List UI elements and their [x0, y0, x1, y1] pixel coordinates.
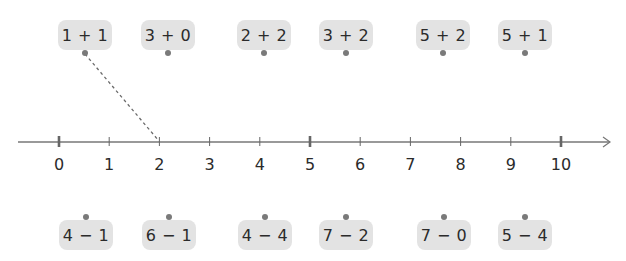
tick-label-1: 1: [94, 155, 124, 174]
expression-card[interactable]: 1 + 1: [58, 20, 112, 50]
tick-label-9: 9: [496, 155, 526, 174]
connector-dot-icon[interactable]: [83, 214, 89, 220]
expression-card[interactable]: 5 + 2: [416, 20, 470, 50]
tick-label-0: 0: [44, 155, 74, 174]
connector-dot-icon[interactable]: [441, 214, 447, 220]
connector-dot-icon[interactable]: [261, 50, 267, 56]
tick-label-2: 2: [144, 155, 174, 174]
connector-dot-icon[interactable]: [166, 214, 172, 220]
tick-label-6: 6: [345, 155, 375, 174]
connector-dot-icon[interactable]: [343, 214, 349, 220]
tick-label-10: 10: [546, 155, 576, 174]
expression-card[interactable]: 2 + 2: [237, 20, 291, 50]
tick-label-3: 3: [195, 155, 225, 174]
expression-card[interactable]: 5 − 4: [498, 220, 552, 250]
expression-card[interactable]: 4 − 4: [238, 220, 292, 250]
connector-dot-icon[interactable]: [522, 50, 528, 56]
expression-card[interactable]: 4 − 1: [59, 220, 113, 250]
expression-card[interactable]: 7 − 2: [319, 220, 373, 250]
connector-dot-icon[interactable]: [262, 214, 268, 220]
expression-card[interactable]: 5 + 1: [498, 20, 552, 50]
tick-label-8: 8: [446, 155, 476, 174]
tick-label-5: 5: [295, 155, 325, 174]
connector-dot-icon[interactable]: [343, 50, 349, 56]
expression-card[interactable]: 6 − 1: [142, 220, 196, 250]
dashed-connector: [85, 54, 159, 141]
connector-dot-icon[interactable]: [522, 214, 528, 220]
tick-label-4: 4: [245, 155, 275, 174]
expression-card[interactable]: 3 + 0: [141, 20, 195, 50]
expression-card[interactable]: 7 − 0: [417, 220, 471, 250]
expression-card[interactable]: 3 + 2: [319, 20, 373, 50]
connector-dot-icon[interactable]: [82, 50, 88, 56]
connector-dot-icon[interactable]: [440, 50, 446, 56]
tick-label-7: 7: [395, 155, 425, 174]
connector-dot-icon[interactable]: [165, 50, 171, 56]
